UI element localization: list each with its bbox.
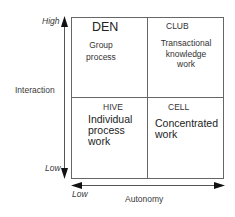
- x-axis-left-arrow-icon: [71, 182, 82, 189]
- quadrant-club-line: knowledge: [156, 49, 216, 60]
- quadrant-den-description: Group process: [84, 40, 118, 62]
- x-axis-title: Autonomy: [125, 194, 163, 204]
- quadrant-hive-line: work: [88, 136, 132, 147]
- y-axis-title: Interaction: [15, 85, 55, 95]
- quadrant-hive-description: Individual process work: [88, 114, 132, 147]
- y-axis-high-label: High: [42, 16, 59, 26]
- x-axis-right-arrow-icon: [214, 182, 225, 189]
- y-axis-up-arrow-icon: [61, 16, 68, 27]
- quadrant-club-description: Transactional knowledge work: [156, 38, 216, 70]
- quadrant-cell-title: CELL: [168, 102, 189, 112]
- quadrant-club-line: Transactional: [156, 38, 216, 49]
- x-axis-low-label: Low: [72, 189, 88, 199]
- quadrant-den-line: Group: [84, 40, 118, 51]
- quadrant-den-line: process: [84, 52, 118, 63]
- y-axis-down-arrow-icon: [61, 168, 68, 179]
- quadrant-hive-title: HIVE: [103, 102, 123, 112]
- quadrant-cell-line: work: [155, 129, 218, 140]
- quadrant-cell-description: Concentrated work: [155, 118, 218, 140]
- quadrant-club-line: work: [156, 59, 216, 70]
- quadrant-den-title: DEN: [92, 20, 118, 34]
- y-axis-low-label: Low: [45, 163, 61, 173]
- quadrant-club-title: CLUB: [166, 21, 189, 31]
